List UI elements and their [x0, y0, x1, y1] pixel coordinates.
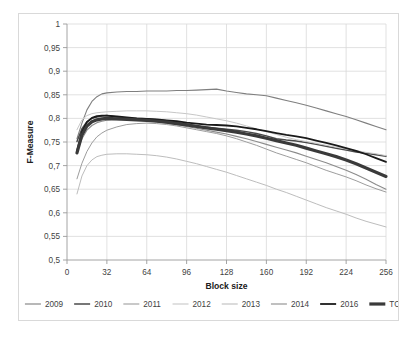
y-axis-title: F-Measure [25, 120, 35, 163]
y-tick-label: 0,8 [49, 114, 61, 123]
legend-label-2016[interactable]: 2016 [340, 300, 359, 309]
x-tick-label: 256 [379, 268, 393, 277]
y-tick-label: 0,75 [44, 138, 60, 147]
legend-label-2011[interactable]: 2011 [143, 300, 161, 309]
series-line-2013 [77, 154, 386, 227]
y-tick-label: 1 [55, 20, 60, 29]
legend-label-total[interactable]: TOTAL [389, 300, 398, 309]
x-tick-label: 224 [339, 268, 353, 277]
x-tick-label: 128 [220, 268, 234, 277]
y-tick-label: 0,95 [44, 44, 60, 53]
chart-card: 0,50,550,60,650,70,750,80,850,90,9510326… [18, 13, 399, 321]
y-tick-label: 0,9 [49, 67, 61, 76]
legend-label-2012[interactable]: 2012 [193, 300, 212, 309]
legend-label-2009[interactable]: 2009 [45, 300, 64, 309]
x-tick-label: 160 [260, 268, 274, 277]
x-tick-label: 192 [299, 268, 313, 277]
y-tick-label: 0,85 [44, 91, 60, 100]
legend-label-2014[interactable]: 2014 [291, 300, 310, 309]
y-tick-label: 0,5 [49, 256, 61, 265]
x-tick-label: 64 [142, 268, 152, 277]
legend-label-2013[interactable]: 2013 [242, 300, 261, 309]
x-tick-label: 96 [182, 268, 192, 277]
y-tick-label: 0,6 [49, 209, 61, 218]
y-tick-label: 0,7 [49, 162, 61, 171]
y-tick-label: 0,55 [44, 232, 60, 241]
x-tick-label: 32 [102, 268, 112, 277]
legend-label-2010[interactable]: 2010 [94, 300, 113, 309]
y-tick-label: 0,65 [44, 185, 60, 194]
series-line-2016 [77, 116, 386, 162]
x-axis-title: Block size [205, 281, 247, 291]
line-chart: 0,50,550,60,650,70,750,80,850,90,9510326… [19, 14, 398, 320]
x-tick-label: 0 [65, 268, 70, 277]
